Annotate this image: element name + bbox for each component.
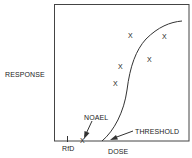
- data-marker-x: X: [147, 56, 152, 63]
- data-marker-x: X: [118, 63, 123, 70]
- data-marker-x: X: [162, 33, 167, 40]
- threshold-arrowhead: [110, 135, 118, 140]
- noael-label: NOAEL: [84, 114, 108, 121]
- x-axis-label: DOSE: [108, 148, 128, 155]
- y-axis-label: RESPONSE: [5, 71, 45, 78]
- dose-response-chart: X X X X X X RESPONSE NOAEL THRESHOLD RfD…: [0, 0, 192, 158]
- data-marker-x: X: [113, 80, 118, 87]
- plot-frame: [55, 5, 190, 142]
- noael-marker-x: X: [80, 137, 85, 144]
- threshold-label: THRESHOLD: [135, 128, 179, 135]
- data-marker-x: X: [128, 32, 133, 39]
- rfd-label: RfD: [62, 145, 74, 152]
